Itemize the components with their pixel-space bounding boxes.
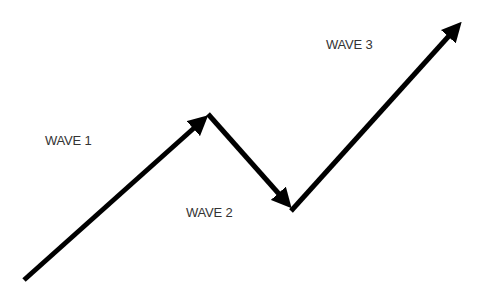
wave-3-label: WAVE 3 [326, 37, 372, 52]
wave-1-label: WAVE 1 [45, 133, 91, 148]
wave-2-label: WAVE 2 [186, 205, 232, 220]
wave-3-arrow [291, 27, 457, 211]
wave-2-arrow [208, 114, 287, 203]
elliott-wave-diagram [0, 0, 487, 306]
